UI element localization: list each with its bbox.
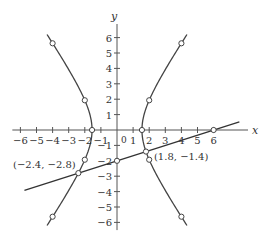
x-tick-label: −6 — [13, 135, 28, 146]
line-point-marker — [211, 127, 216, 132]
y-tick-label: −5 — [97, 202, 112, 213]
x-tick-label: 1 — [130, 135, 136, 146]
x-tick-label: 5 — [194, 135, 200, 146]
hyperbola-point-marker — [82, 98, 87, 103]
line-point-marker — [114, 158, 119, 163]
hyperbola-point-marker — [147, 98, 152, 103]
y-tick-label: 1 — [106, 110, 112, 121]
x-axis-label: x — [252, 124, 259, 137]
x-tick-label: −2 — [77, 135, 92, 146]
y-axis-label: y — [110, 10, 118, 23]
y-tick-label: 3 — [106, 79, 112, 90]
x-tick-label: 3 — [162, 135, 168, 146]
y-tick-label: −4 — [97, 187, 112, 198]
x-tick-label: −4 — [45, 135, 60, 146]
y-tick-label: 6 — [106, 33, 112, 44]
hyperbola-point-marker — [179, 214, 184, 219]
hyperbola-line-diagram: xy−6−5−4−3−2−1123456654321−1−2−3−4−5−60(… — [0, 0, 264, 244]
x-tick-label: 2 — [146, 135, 152, 146]
origin-label: 0 — [121, 135, 127, 145]
y-tick-label: −2 — [97, 156, 112, 167]
intersection-label-left: (−2.4, −2.8) — [13, 159, 76, 170]
y-tick-label: 5 — [106, 48, 112, 59]
hyperbola-point-marker — [179, 41, 184, 46]
y-tick-label: −3 — [97, 171, 112, 182]
intersection-marker — [143, 149, 148, 154]
hyperbola-point-marker — [89, 127, 94, 132]
x-tick-label: −3 — [61, 135, 76, 146]
hyperbola-point-marker — [147, 157, 152, 162]
hyperbola-point-marker — [82, 157, 87, 162]
x-tick-label: −5 — [29, 135, 44, 146]
hyperbola-point-marker — [50, 214, 55, 219]
intersection-label-right: (1.8, −1.4) — [154, 151, 208, 162]
hyperbola-point-marker — [50, 41, 55, 46]
y-tick-label: −6 — [97, 217, 112, 228]
y-tick-label: 4 — [106, 63, 112, 74]
x-tick-label: 4 — [178, 135, 184, 146]
y-tick-label: −1 — [97, 140, 112, 151]
hyperbola-point-marker — [139, 127, 144, 132]
intersection-marker — [76, 171, 81, 176]
y-tick-label: 2 — [106, 94, 112, 105]
x-tick-label: 6 — [210, 135, 216, 146]
